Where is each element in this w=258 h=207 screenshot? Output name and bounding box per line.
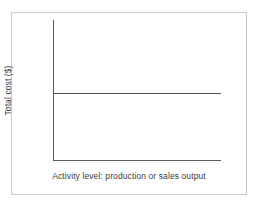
x-axis-label: Activity level: production or sales outp… [20, 171, 238, 182]
plot-area [53, 20, 220, 161]
y-axis-label: Total cost ($) [3, 31, 14, 151]
figure-root: Total cost ($) Activity level: productio… [0, 0, 258, 207]
y-axis-line [53, 20, 54, 161]
fixed-cost-line [53, 93, 221, 94]
x-axis-line [53, 160, 221, 161]
